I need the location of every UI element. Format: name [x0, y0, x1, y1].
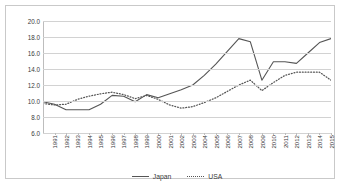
legend-item-usa: USA	[187, 173, 222, 180]
legend-item-japan: Japan	[132, 173, 172, 180]
x-tick-label: 1996	[109, 135, 116, 149]
y-tick-label: 16.0	[6, 50, 40, 57]
legend-swatch-dotted-icon	[187, 176, 204, 177]
gridline-8.0	[43, 117, 331, 118]
chart-frame: 20.018.016.014.012.010.08.06.0 199119921…	[5, 5, 335, 179]
legend-label-japan: Japan	[153, 173, 172, 180]
y-tick-label: 20.0	[6, 18, 40, 25]
y-tick-label: 6.0	[6, 130, 40, 137]
x-tick-label: 2001	[167, 135, 174, 149]
x-tick-label: 1999	[143, 135, 150, 149]
x-tick-label: 1992	[63, 135, 70, 149]
x-tick-label: 2007	[236, 135, 243, 149]
gridline-18.0	[43, 37, 331, 38]
y-tick-label: 14.0	[6, 66, 40, 73]
x-tick-label: 2011	[282, 135, 289, 148]
gridline-20.0	[43, 21, 331, 22]
gridline-10.0	[43, 101, 331, 102]
x-tick-label: 2006	[224, 135, 231, 149]
gridline-14.0	[43, 69, 331, 70]
x-tick-label: 1997	[120, 135, 127, 149]
y-tick-label: 12.0	[6, 82, 40, 89]
x-tick-label: 2015	[328, 135, 335, 149]
plot-area	[43, 21, 331, 133]
gridline-16.0	[43, 53, 331, 54]
y-axis-tick-labels: 20.018.016.014.012.010.08.06.0	[6, 21, 40, 133]
legend-label-usa: USA	[208, 173, 222, 180]
x-tick-label: 2010	[270, 135, 277, 149]
gridline-12.0	[43, 85, 331, 86]
x-tick-label: 2014	[316, 135, 323, 149]
chart-figure: 20.018.016.014.012.010.08.06.0 199119921…	[0, 0, 342, 188]
x-tick-label: 2000	[155, 135, 162, 149]
x-tick-label: 2008	[247, 135, 254, 149]
x-tick-label: 2005	[213, 135, 220, 149]
x-tick-label: 1995	[97, 135, 104, 149]
x-axis-tick-labels: 1991199219931994199519961997199819992000…	[43, 135, 331, 169]
x-tick-label: 1991	[51, 135, 58, 149]
x-tick-label: 2009	[259, 135, 266, 149]
y-tick-label: 8.0	[6, 114, 40, 121]
y-tick-label: 18.0	[6, 34, 40, 41]
y-tick-label: 10.0	[6, 98, 40, 105]
x-tick-label: 2013	[305, 135, 312, 149]
x-tick-label: 1998	[132, 135, 139, 149]
x-tick-label: 2012	[293, 135, 300, 149]
legend-swatch-solid-icon	[132, 176, 149, 177]
x-tick-label: 2003	[190, 135, 197, 149]
x-tick-label: 1994	[86, 135, 93, 149]
x-tick-label: 1993	[74, 135, 81, 149]
x-tick-label: 2004	[201, 135, 208, 149]
chart-legend: Japan USA	[6, 169, 342, 183]
x-tick-label: 2002	[178, 135, 185, 149]
